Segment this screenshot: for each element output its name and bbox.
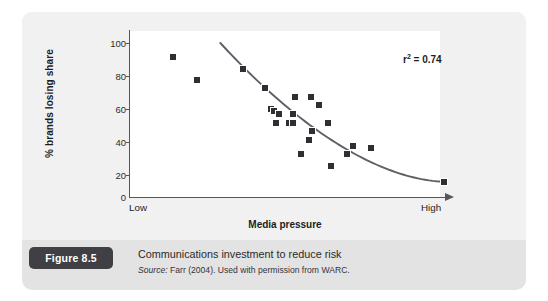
scatter-point xyxy=(349,142,357,150)
scatter-point xyxy=(289,110,297,118)
scatter-point xyxy=(305,136,313,144)
scatter-point xyxy=(440,178,448,186)
scatter-point xyxy=(169,53,177,61)
scatter-point xyxy=(367,144,375,152)
y-tick-mark xyxy=(126,175,129,176)
x-tick-label-high: High xyxy=(421,202,441,213)
y-tick-label-40: 40 xyxy=(100,137,126,148)
scatter-point xyxy=(297,150,305,158)
y-tick-label-20: 20 xyxy=(100,170,126,181)
caption-band: Figure 8.5 Communications investment to … xyxy=(22,240,526,290)
y-axis-ticks: 100 80 60 40 20 0 xyxy=(96,12,126,240)
source-text: Farr (2004). Used with permission from W… xyxy=(170,265,350,275)
scatter-point xyxy=(343,150,351,158)
x-tick-label-low: Low xyxy=(129,202,147,213)
scatter-point xyxy=(324,119,332,127)
scatter-point xyxy=(289,119,297,127)
x-axis-title: Media pressure xyxy=(130,219,440,230)
figure-number-badge: Figure 8.5 xyxy=(29,247,113,269)
y-axis-title: % brands losing share xyxy=(44,29,55,179)
x-axis-line xyxy=(129,197,447,198)
y-tick-mark xyxy=(126,43,129,44)
figure-caption-title: Communications investment to reduce risk xyxy=(138,248,341,260)
scatter-point xyxy=(239,65,247,73)
y-tick-label-60: 60 xyxy=(100,104,126,115)
scatter-point xyxy=(307,93,315,101)
source-prefix: Source: xyxy=(138,265,168,275)
figure-source-line: Source: Farr (2004). Used with permissio… xyxy=(138,265,350,275)
y-tick-label-100: 100 xyxy=(100,38,126,49)
r-squared-value: = 0.74 xyxy=(414,54,442,65)
y-tick-label-0: 0 xyxy=(100,192,126,203)
r-squared-annotation: r2 = 0.74 xyxy=(403,53,442,65)
scatter-point xyxy=(193,76,201,84)
scatter-point xyxy=(291,93,299,101)
scatter-point xyxy=(327,162,335,170)
figure-card: 100 80 60 40 20 0 % brands losing share … xyxy=(22,12,526,290)
y-tick-mark xyxy=(126,76,129,77)
scatter-point xyxy=(261,84,269,92)
r-squared-superscript: 2 xyxy=(407,53,411,60)
x-axis-arrow-icon xyxy=(445,193,454,201)
scatter-point xyxy=(272,119,280,127)
scatter-point xyxy=(275,110,283,118)
y-axis-line xyxy=(129,30,130,198)
y-tick-mark xyxy=(126,109,129,110)
scatter-point xyxy=(315,101,323,109)
y-tick-label-80: 80 xyxy=(100,71,126,82)
scatter-point xyxy=(308,127,316,135)
y-tick-mark xyxy=(126,142,129,143)
chart-area: 100 80 60 40 20 0 % brands losing share … xyxy=(22,12,526,240)
